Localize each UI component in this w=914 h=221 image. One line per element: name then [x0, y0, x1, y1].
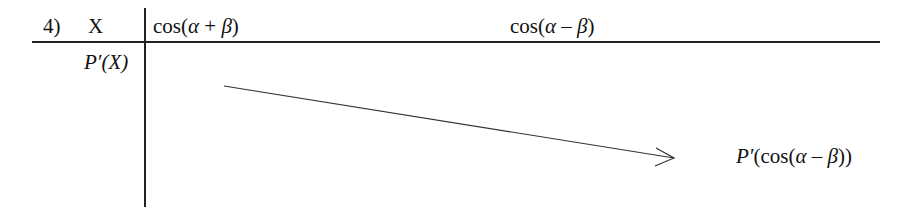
column-header-cos-diff: cos(α – β)	[510, 16, 595, 37]
header-variable: X	[88, 16, 103, 37]
column-header-cos-sum: cos(α + β)	[153, 16, 239, 37]
table-lines	[0, 0, 914, 221]
problem-number: 4)	[43, 16, 61, 37]
row-label-derivative: P′(X)	[84, 52, 128, 73]
arrow-target-label: P′(cos(α – β))	[736, 146, 852, 167]
variation-arrow	[224, 86, 674, 166]
